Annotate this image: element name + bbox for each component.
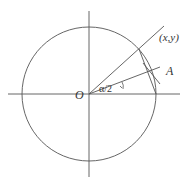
- half-angle-label: α/2: [99, 83, 112, 94]
- point-label: (x,y): [159, 31, 179, 44]
- origin-label: O: [75, 88, 84, 102]
- angle-arc-mark: [122, 82, 123, 89]
- point-a-label: A: [165, 64, 174, 78]
- unit-circle-diagram: O (x,y) A α/2: [0, 0, 193, 186]
- chord: [139, 49, 156, 94]
- angle-arc-mark-2: [120, 86, 122, 88]
